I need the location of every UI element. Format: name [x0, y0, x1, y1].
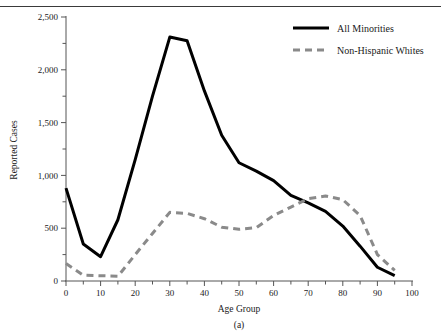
x-tick-label: 50: [235, 288, 245, 298]
x-axis-title: Age Group: [218, 304, 261, 314]
y-tick-label: 2,500: [38, 12, 59, 22]
x-tick-label: 80: [338, 288, 348, 298]
x-tick-label: 60: [269, 288, 279, 298]
y-tick-label: 500: [45, 223, 59, 233]
y-axis: 05001,0001,5002,0002,500: [38, 12, 66, 286]
data-series-group: [66, 37, 395, 276]
x-tick-label: 40: [200, 288, 210, 298]
figure-caption: (a): [234, 320, 245, 331]
x-tick-label: 10: [96, 288, 106, 298]
x-tick-label: 20: [131, 288, 141, 298]
y-tick-label: 1,500: [38, 118, 59, 128]
y-tick-label: 1,000: [38, 171, 59, 181]
chart-legend: All MinoritiesNon-Hispanic Whites: [293, 23, 424, 56]
y-tick-label: 2,000: [38, 65, 59, 75]
line-chart: 05001,0001,5002,0002,500 010203040506070…: [0, 0, 441, 336]
y-tick-label: 0: [54, 276, 59, 286]
x-axis: 0102030405060708090100: [64, 281, 420, 298]
series-line-1: [66, 196, 395, 276]
y-axis-title: Reported Cases: [9, 120, 19, 180]
x-tick-label: 30: [165, 288, 175, 298]
legend-label-1: Non-Hispanic Whites: [337, 45, 424, 56]
x-tick-label: 90: [373, 288, 383, 298]
x-tick-label: 100: [405, 288, 419, 298]
x-tick-label: 70: [304, 288, 314, 298]
series-line-0: [66, 37, 395, 276]
legend-label-0: All Minorities: [337, 23, 394, 34]
figure-panel: 05001,0001,5002,0002,500 010203040506070…: [0, 0, 441, 336]
x-tick-label: 0: [64, 288, 69, 298]
